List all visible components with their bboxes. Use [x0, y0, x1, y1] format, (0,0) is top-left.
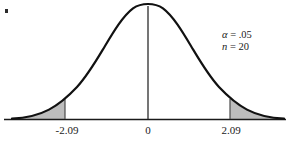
normal-curve-figure: -2.09 0 2.09 α = .05 n = 20	[0, 0, 290, 142]
alpha-annotation-line: α = .05	[222, 29, 252, 41]
n-value: 20	[238, 41, 249, 52]
left-rejection-region-shade	[12, 99, 65, 119]
tick-label-left-critical: -2.09	[43, 124, 91, 136]
parameter-annotation: α = .05 n = 20	[222, 29, 252, 52]
alpha-value: .05	[239, 29, 252, 40]
right-rejection-region-shade	[230, 99, 283, 119]
tick-label-right-critical: 2.09	[208, 124, 254, 136]
n-equals: =	[227, 41, 238, 52]
tick-label-center: 0	[133, 124, 163, 136]
sample-size-annotation-line: n = 20	[222, 41, 252, 53]
alpha-equals: =	[228, 29, 239, 40]
distribution-plot	[0, 0, 290, 142]
